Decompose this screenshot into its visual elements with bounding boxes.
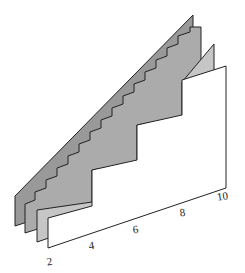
x-tick-label: 8 xyxy=(179,206,187,219)
x-tick-label: 2 xyxy=(46,255,53,268)
x-tick-label: 6 xyxy=(132,223,140,236)
x-tick-label: 4 xyxy=(88,239,96,252)
x-tick-label: 10 xyxy=(216,189,229,202)
staircase-3d-chart: 246810 xyxy=(0,0,245,273)
